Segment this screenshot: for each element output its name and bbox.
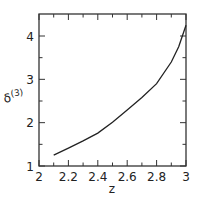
series-line <box>54 25 186 155</box>
plot-frame <box>39 14 186 166</box>
chart: 22.22.42.62.831234 z δ(3) <box>0 0 201 199</box>
x-tick-label: 2 <box>35 170 43 184</box>
x-tick-label: 2.6 <box>118 170 137 184</box>
x-tick-label: 2.8 <box>147 170 166 184</box>
y-tick-label: 3 <box>26 73 34 87</box>
y-axis-label: δ(3) <box>3 87 25 106</box>
x-axis-label: z <box>109 182 115 196</box>
tick-labels: 22.22.42.62.831234 <box>26 30 189 185</box>
y-tick-label: 2 <box>26 116 34 130</box>
x-tick-label: 2.4 <box>88 170 107 184</box>
ticks <box>39 14 186 166</box>
y-tick-label: 4 <box>26 30 34 44</box>
y-tick-label: 1 <box>26 160 34 174</box>
x-tick-label: 2.2 <box>59 170 78 184</box>
axes <box>39 14 186 166</box>
y-axis-label-sup: (3) <box>10 87 24 99</box>
x-tick-label: 3 <box>182 170 190 184</box>
